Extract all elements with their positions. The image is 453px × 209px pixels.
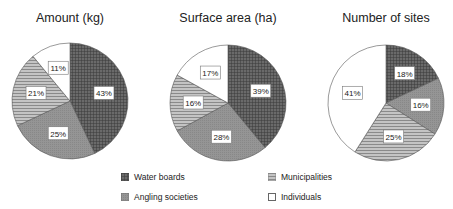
legend-item-water-boards: Water boards [121, 172, 185, 182]
slice-label: 39% [253, 87, 269, 96]
slice-label: 11% [51, 64, 66, 73]
slice-label: 21% [28, 89, 44, 98]
swatch-stripes-icon [268, 173, 276, 181]
slice-label: 25% [50, 130, 66, 139]
legend-label: Individuals [281, 192, 321, 202]
slice-label: 43% [96, 89, 112, 98]
slice-label: 17% [202, 69, 218, 78]
legend-item-angling-societies: Angling societies [121, 192, 198, 202]
pie-charts: 43%25%21%11%39%28%16%17%18%16%25%41% [0, 0, 453, 209]
slice-label: 18% [397, 70, 413, 79]
slice-label: 41% [345, 89, 361, 98]
legend-item-individuals: Individuals [268, 192, 321, 202]
swatch-crosshatch-icon [121, 173, 129, 181]
slice-label: 25% [386, 133, 402, 142]
swatch-white-icon [268, 193, 276, 201]
slice-label: 16% [413, 101, 429, 110]
legend-item-municipalities: Municipalities [268, 172, 332, 182]
legend-label: Municipalities [281, 172, 332, 182]
legend-label: Angling societies [134, 192, 198, 202]
legend-label: Water boards [134, 172, 185, 182]
swatch-gray-icon [121, 193, 129, 201]
slice-label: 28% [213, 133, 229, 142]
slice-label: 16% [185, 99, 201, 108]
